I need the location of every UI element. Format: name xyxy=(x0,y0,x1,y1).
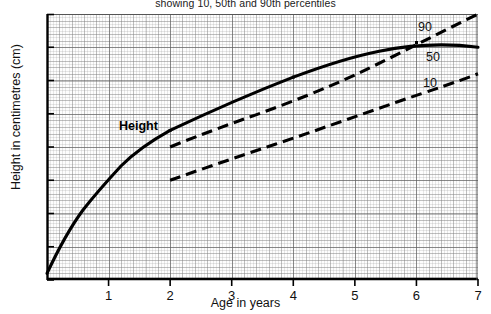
chart-svg xyxy=(47,14,478,280)
data-point-markers xyxy=(169,41,418,132)
percentile-50-label: 50 xyxy=(426,50,440,64)
x-axis-title: Age in years xyxy=(0,296,491,310)
percentile-10-label: 10 xyxy=(423,76,437,90)
percentile-50-line-early xyxy=(47,45,478,274)
height-annotation-label: Height xyxy=(119,119,158,133)
percentile-90-label: 90 xyxy=(418,20,432,34)
plot-area: 130 120 110 100 90 80 70 60 50 1 2 3 4 5… xyxy=(47,14,478,280)
y-axis-title: Height in centimetres (cm) xyxy=(9,0,23,237)
chart-title: showing 10, 50th and 90th percentiles xyxy=(0,0,491,9)
